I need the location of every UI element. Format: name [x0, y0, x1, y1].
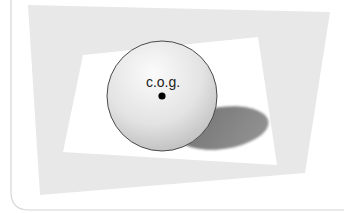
- cog-dot: [158, 92, 165, 99]
- cog-label: c.o.g.: [146, 74, 180, 90]
- cog-diagram: c.o.g.: [0, 0, 344, 213]
